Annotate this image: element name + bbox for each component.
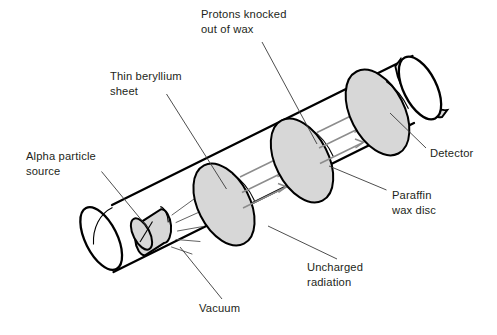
label-vacuum: Vacuum [199, 302, 240, 314]
alpha-ray [172, 247, 193, 254]
leader-vacuum [180, 247, 222, 299]
leader-uncharged-radiation [268, 226, 337, 259]
label-line-1: Thin beryllium [110, 70, 182, 82]
label-protons-knocked-out-of-wax: Protons knocked out of wax [201, 8, 290, 35]
label-line-1: Paraffin [392, 189, 432, 201]
label-line-1: Alpha particle [26, 150, 96, 162]
physics-diagram: Protons knocked out of wax Thin berylliu… [0, 0, 497, 335]
label-line-2: sheet [110, 85, 139, 97]
label-line-2: source [26, 165, 60, 177]
label-line-1: Detector [430, 147, 474, 159]
label-line-1: Uncharged [307, 261, 363, 273]
leader-paraffin [329, 166, 387, 190]
label-line-1: Protons knocked [201, 8, 287, 20]
label-uncharged-radiation: Uncharged radiation [307, 261, 366, 288]
label-alpha-particle-source: Alpha particle source [26, 150, 99, 177]
label-line-2: wax disc [391, 204, 436, 216]
label-thin-beryllium-sheet: Thin beryllium sheet [110, 70, 185, 97]
label-line-2: out of wax [201, 23, 254, 35]
label-detector: Detector [430, 147, 474, 159]
chadwick-apparatus-illustration: Protons knocked out of wax Thin berylliu… [0, 0, 497, 335]
label-line-1: Vacuum [199, 302, 240, 314]
label-line-2: radiation [307, 276, 351, 288]
label-paraffin-wax-disc: Paraffin wax disc [391, 189, 436, 216]
